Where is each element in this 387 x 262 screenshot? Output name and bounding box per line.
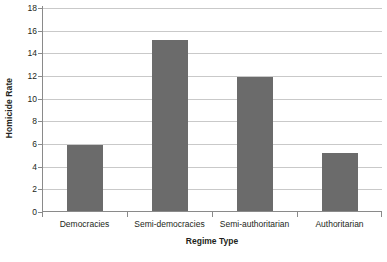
y-axis-tick-label: 2	[32, 184, 37, 194]
plot-area	[42, 8, 382, 212]
y-axis-title-text: Homicide Rate	[4, 77, 14, 137]
y-axis-tick-label: 8	[32, 116, 37, 126]
x-axis-tick-marks	[42, 212, 382, 218]
x-axis-title: Regime Type	[42, 236, 382, 246]
y-axis-tick-label: 6	[32, 139, 37, 149]
bar	[322, 153, 358, 211]
y-axis-tick-mark	[38, 121, 43, 122]
y-axis-tick-mark	[38, 99, 43, 100]
gridline	[43, 8, 382, 9]
gridline	[43, 53, 382, 54]
x-axis-tick-mark	[297, 212, 298, 217]
x-axis-tick-mark	[381, 212, 382, 217]
x-axis-tick-label: Semi-democracies	[134, 219, 204, 229]
bar	[237, 77, 273, 211]
x-axis-tick-label: Democracies	[60, 219, 110, 229]
gridline	[43, 31, 382, 32]
y-axis-tick-label: 10	[28, 94, 37, 104]
y-axis-tick-mark	[38, 31, 43, 32]
gridline	[43, 121, 382, 122]
y-axis-line	[42, 6, 43, 214]
y-axis-tick-label: 4	[32, 162, 37, 172]
y-axis-tick-label: 0	[32, 207, 37, 217]
bar-chart: Homicide Rate 024681012141618 Democracie…	[0, 0, 387, 262]
y-axis-tick-mark	[38, 144, 43, 145]
y-axis-tick-mark	[38, 53, 43, 54]
gridline	[43, 76, 382, 77]
y-axis-tick-labels: 024681012141618	[18, 8, 40, 212]
x-axis-tick-mark	[212, 212, 213, 217]
y-axis-tick-label: 16	[28, 26, 37, 36]
x-axis-tick-labels: DemocraciesSemi-democraciesSemi-authorit…	[42, 219, 382, 233]
y-axis-tick-label: 14	[28, 48, 37, 58]
y-axis-tick-label: 18	[28, 3, 37, 13]
x-axis-tick-mark	[127, 212, 128, 217]
bar	[152, 40, 188, 211]
y-axis-tick-mark	[38, 76, 43, 77]
x-axis-tick-mark	[42, 212, 43, 217]
y-axis-title: Homicide Rate	[0, 0, 18, 215]
y-axis-tick-mark	[38, 189, 43, 190]
bar	[67, 145, 103, 211]
gridline	[43, 99, 382, 100]
y-axis-tick-label: 12	[28, 71, 37, 81]
y-axis-tick-mark	[38, 8, 43, 9]
x-axis-tick-label: Semi-authoritarian	[220, 219, 289, 229]
y-axis-tick-mark	[38, 167, 43, 168]
x-axis-tick-label: Authoritarian	[315, 219, 363, 229]
